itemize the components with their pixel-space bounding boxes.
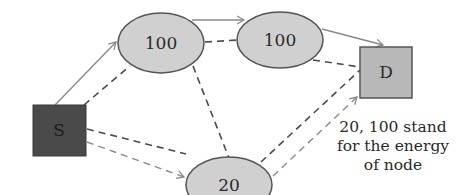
node-n1-label: 100: [145, 33, 177, 53]
node-s-label: S: [53, 120, 65, 140]
node-n2-label: 100: [264, 30, 296, 50]
node-n3-label: 20: [218, 175, 240, 195]
edge-n1-n3-dashed: [193, 66, 229, 158]
node-d: D: [360, 47, 412, 98]
node-n1: 100: [118, 13, 204, 73]
node-s: S: [33, 105, 86, 156]
caption-line-2: for the energy: [318, 137, 468, 156]
edge-s-n3-dashed: [87, 129, 186, 154]
node-d-label: D: [379, 62, 393, 82]
energy-caption: 20, 100 stand for the energy of node: [318, 118, 468, 175]
caption-line-1: 20, 100 stand: [318, 118, 468, 137]
node-n3: 20: [186, 157, 272, 195]
edge-s-n3-dashed-arrow: [87, 142, 184, 177]
energy-routing-diagram: 100 100 20 S D 20, 100 stand for the ene…: [0, 0, 475, 195]
edge-n2-d-solid-arrow: [322, 29, 383, 45]
edge-n1-n2-dashed: [205, 40, 238, 42]
caption-line-3: of node: [318, 156, 468, 175]
edge-s-n1-solid-arrow: [55, 42, 116, 105]
edge-s-n1-dashed: [84, 66, 130, 105]
edge-n2-d-dashed: [313, 60, 360, 67]
node-n2: 100: [237, 12, 323, 68]
